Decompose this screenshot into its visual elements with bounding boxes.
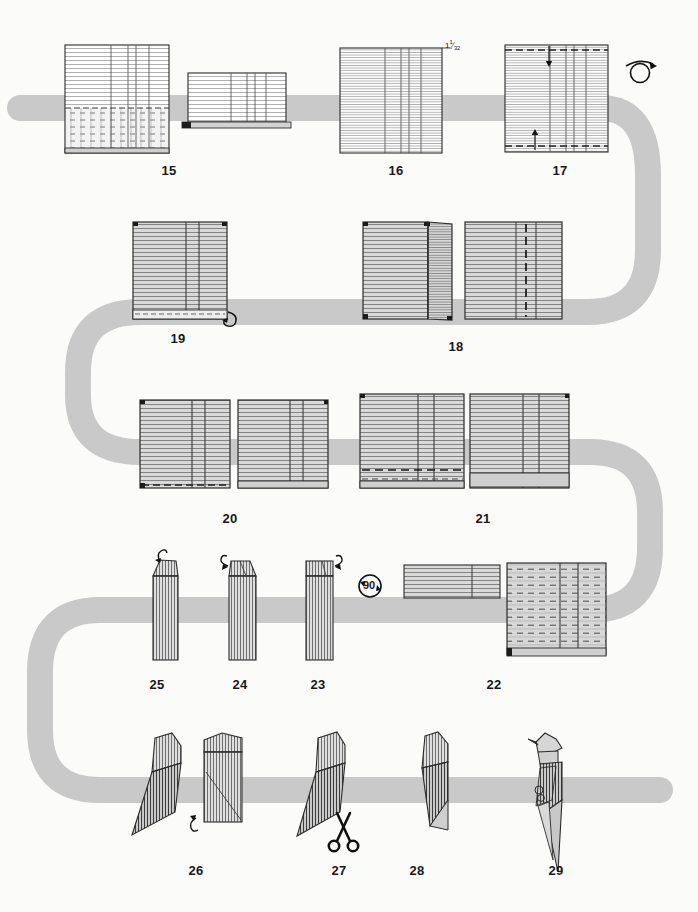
step-label-16: 16 xyxy=(388,163,403,178)
figure-step-16 xyxy=(340,48,452,153)
scissors-cut-icon xyxy=(329,813,358,851)
figure-step-29-finished-bird xyxy=(528,733,562,872)
figure-step-28 xyxy=(422,732,448,830)
step-label-25: 25 xyxy=(149,677,164,692)
step-label-29: 29 xyxy=(548,863,563,878)
step-label-23: 23 xyxy=(310,677,325,692)
origami-diagram-page: 15 16 17 19 18 20 21 25 24 23 22 26 27 2… xyxy=(0,0,698,912)
figure-step-21 xyxy=(360,394,569,488)
unfold-curl-arrow-left xyxy=(221,555,228,570)
figure-step-26 xyxy=(132,733,242,835)
step-label-27: 27 xyxy=(331,863,346,878)
figure-step-22 xyxy=(404,563,606,656)
step-label-17: 17 xyxy=(552,163,567,178)
step-label-19: 19 xyxy=(170,331,185,346)
measurement-fraction: 1⁄32 xyxy=(449,39,460,51)
step-label-22: 22 xyxy=(486,677,501,692)
figure-step-17 xyxy=(505,45,657,152)
figure-step-20 xyxy=(140,400,328,488)
step-label-21: 21 xyxy=(475,511,490,526)
step-label-24: 24 xyxy=(232,677,247,692)
measurement-annotation: 11⁄32 xyxy=(445,40,460,52)
figure-step-15 xyxy=(65,45,291,153)
step-label-28: 28 xyxy=(409,863,424,878)
turn-over-loop-arrow xyxy=(626,61,657,82)
pleat-curl-arrow xyxy=(190,815,198,831)
figure-step-27 xyxy=(297,732,358,851)
figure-step-19 xyxy=(133,222,236,326)
step-label-26: 26 xyxy=(188,863,203,878)
rotate-90-label: 90 xyxy=(363,579,375,591)
measurement-numerator: 1 xyxy=(449,39,452,45)
measurement-denominator: 32 xyxy=(454,45,460,51)
origami-step-figures xyxy=(0,0,698,912)
step-label-18: 18 xyxy=(448,339,463,354)
step-label-20: 20 xyxy=(222,511,237,526)
unfold-curl-arrow-right xyxy=(335,555,342,570)
figure-step-25 xyxy=(153,550,178,660)
figure-step-24 xyxy=(221,555,256,660)
figure-step-18 xyxy=(363,222,562,320)
step-label-15: 15 xyxy=(161,163,176,178)
figure-step-23 xyxy=(306,555,381,660)
